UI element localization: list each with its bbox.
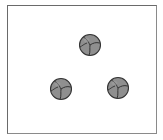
cell-cluster-bottom-left xyxy=(49,77,73,101)
cell-cluster-top xyxy=(78,33,102,57)
tetrad-cell-icon xyxy=(49,77,73,101)
tetrad-cell-icon xyxy=(106,76,130,100)
tetrad-cell-icon xyxy=(78,33,102,57)
cell-cluster-bottom-right xyxy=(106,76,130,100)
figure-frame xyxy=(7,5,157,134)
